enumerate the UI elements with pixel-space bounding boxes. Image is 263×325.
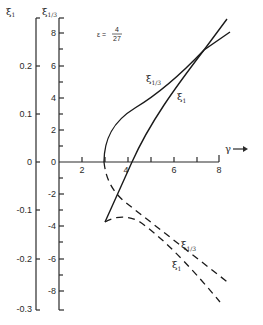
svg-text:0.1: 0.1	[19, 109, 32, 119]
svg-text:6: 6	[171, 165, 176, 175]
curve-label-xi13-lower: ξ1/3	[181, 239, 196, 252]
xi13-axis	[59, 18, 64, 310]
epsilon-annotation: ε = 4 27	[97, 26, 122, 42]
svg-text:-8: -8	[48, 286, 56, 296]
xi13-dashed-curve	[104, 162, 230, 284]
svg-text:2: 2	[51, 125, 56, 135]
xi1-tick-labels: 0.2 0.1 0 -0.1 -0.2 -0.3	[16, 61, 32, 314]
gamma-arrow-icon	[233, 146, 248, 152]
xi1-axis-title: ξ1	[6, 6, 15, 18]
gamma-label: γ	[225, 143, 231, 154]
svg-text:0.2: 0.2	[19, 61, 32, 71]
xi13-solid-curve	[104, 32, 230, 162]
svg-text:-2: -2	[48, 189, 56, 199]
xi1-axis	[36, 18, 40, 310]
svg-text:8: 8	[51, 28, 56, 38]
svg-text:0: 0	[27, 157, 32, 167]
svg-text:8: 8	[216, 165, 221, 175]
svg-text:ε =: ε =	[97, 31, 106, 38]
svg-text:27: 27	[113, 35, 121, 42]
curve-label-xi1-upper: ξ1	[177, 91, 186, 104]
svg-text:-0.3: -0.3	[16, 304, 32, 314]
xi1-dashed-curve	[105, 217, 220, 302]
svg-text:-4: -4	[48, 221, 56, 231]
svg-text:-0.1: -0.1	[16, 205, 32, 215]
gamma-axis	[59, 155, 219, 162]
curve-label-xi13-upper: ξ1/3	[146, 73, 161, 86]
svg-text:4: 4	[51, 93, 56, 103]
svg-text:6: 6	[51, 61, 56, 71]
svg-text:4: 4	[115, 26, 119, 33]
xi1-solid-curve	[105, 19, 227, 222]
svg-text:0: 0	[51, 157, 56, 167]
xi13-tick-labels: 8 6 4 2 0 -2 -4 -6 -8	[48, 28, 56, 296]
svg-text:-0.2: -0.2	[16, 254, 32, 264]
chart: ξ1 0.2 0.1 0 -0.1 -0.2 -0.3 ξ1/3 8 6 4 2	[0, 0, 263, 325]
svg-text:-6: -6	[48, 254, 56, 264]
gamma-tick-labels: 2 4 6 8	[79, 165, 221, 175]
curve-label-xi1-lower: ξ1	[172, 259, 181, 272]
svg-text:2: 2	[79, 165, 84, 175]
xi13-axis-title: ξ1/3	[42, 6, 57, 18]
